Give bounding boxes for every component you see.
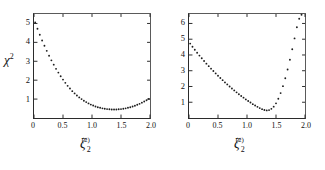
y-axis-label-panel-i: χ2 [4, 52, 14, 68]
data-point [50, 59, 52, 61]
data-point [134, 105, 136, 107]
data-point [233, 89, 235, 91]
data-point [136, 104, 138, 106]
x-tick-label: 2.0 [141, 121, 161, 130]
data-point [252, 103, 254, 105]
data-point [215, 72, 217, 74]
x-axis-label-panel-i: ζ(2)2 [80, 136, 98, 154]
data-point [118, 108, 120, 110]
y-tick-label: 3 [16, 56, 30, 66]
data-point [231, 88, 233, 90]
data-point [88, 103, 90, 105]
data-point [83, 100, 85, 102]
data-point [34, 22, 36, 24]
axis-ticks-panel-ii [189, 14, 305, 118]
data-points-panel-ii [189, 14, 302, 112]
data-point [92, 105, 94, 107]
data-point [291, 48, 293, 50]
x-axis-label-superscript: (2) [82, 136, 90, 144]
data-point [194, 49, 196, 51]
data-point [90, 104, 92, 106]
data-point [146, 99, 148, 101]
data-point [53, 64, 55, 66]
data-point [268, 109, 270, 111]
data-point [108, 108, 110, 110]
data-point [257, 106, 259, 108]
y-tick-label: 2 [171, 81, 185, 91]
data-point [60, 75, 62, 77]
data-point [71, 90, 73, 92]
x-tick-label: 1.5 [112, 121, 132, 130]
data-point [245, 98, 247, 100]
data-point [67, 85, 69, 87]
data-point [277, 98, 279, 100]
data-point [55, 68, 57, 70]
data-point [203, 60, 205, 62]
data-point [192, 46, 194, 48]
x-tick-label: 0 [178, 121, 198, 130]
x-tick-label: 0.5 [208, 121, 228, 130]
data-point [113, 109, 115, 111]
x-tick-label: 2.0 [296, 121, 316, 130]
y-axis-label-exponent: 2 [10, 52, 14, 61]
data-point [44, 45, 46, 47]
plot-frame-panel-ii [188, 13, 306, 119]
data-point [236, 91, 238, 93]
panel-ii: x 10-2 II 123456 00.51.01.52.0 ζ(2)2 [162, 0, 324, 170]
data-point [229, 86, 231, 88]
data-point [95, 106, 97, 108]
data-point [301, 14, 303, 16]
data-point [287, 69, 289, 71]
data-point [122, 108, 124, 110]
y-tick-label: 1 [16, 94, 30, 104]
data-point [284, 77, 286, 79]
scatter-plot-panel-i [34, 14, 150, 118]
data-point [97, 106, 99, 108]
data-point [298, 18, 300, 20]
data-point [238, 93, 240, 95]
y-tick-label: 3 [171, 65, 185, 75]
data-point [57, 72, 59, 74]
data-point [106, 108, 108, 110]
y-tick-label: 4 [171, 49, 185, 59]
data-point [189, 43, 191, 45]
data-point [208, 65, 210, 67]
data-point [296, 26, 298, 28]
axis-ticks-panel-i [34, 14, 150, 118]
plot-frame-panel-i [33, 13, 151, 119]
y-tick-label: 2 [16, 75, 30, 85]
y-tick-label: 5 [16, 17, 30, 27]
data-point [210, 68, 212, 70]
data-point [259, 107, 261, 109]
data-point [141, 102, 143, 104]
data-point [240, 95, 242, 97]
data-point [99, 107, 101, 109]
data-point [39, 34, 41, 36]
data-point [62, 79, 64, 81]
data-point [243, 97, 245, 99]
data-point [212, 70, 214, 72]
y-tick-label: 5 [171, 33, 185, 43]
data-point [115, 109, 117, 111]
data-point [69, 88, 71, 90]
data-point [247, 100, 249, 102]
x-axis-label-subscript: 2 [87, 145, 91, 154]
data-point [280, 92, 282, 94]
data-point [78, 96, 80, 98]
data-point [74, 92, 76, 94]
data-point [275, 102, 277, 104]
x-axis-label-panel-ii: ζ(2)2 [234, 136, 252, 154]
data-point [261, 108, 263, 110]
y-tick-label: 6 [171, 17, 185, 27]
data-point [104, 108, 106, 110]
data-point [289, 59, 291, 61]
data-point [226, 84, 228, 86]
data-point [224, 81, 226, 83]
x-tick-label: 1.0 [237, 121, 257, 130]
data-point [148, 98, 150, 100]
x-tick-label: 0.5 [53, 121, 73, 130]
scatter-plot-panel-ii [189, 14, 305, 118]
data-point [125, 107, 127, 109]
data-point [111, 109, 113, 111]
data-point [294, 37, 296, 39]
